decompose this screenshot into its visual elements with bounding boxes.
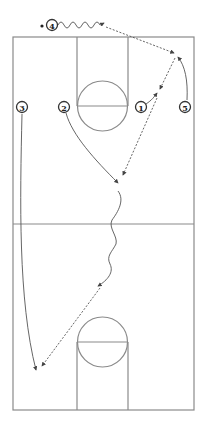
play-diagram: 1 2 3 4 5 <box>0 0 206 429</box>
player-1[interactable]: 1 <box>136 102 147 113</box>
cut-5 <box>178 57 187 100</box>
player-3-label: 3 <box>19 103 25 113</box>
pass-4-to-5 <box>106 27 174 53</box>
actions <box>21 22 187 370</box>
player-5[interactable]: 5 <box>180 102 191 113</box>
player-2[interactable]: 2 <box>59 102 70 113</box>
player-3[interactable]: 3 <box>17 102 28 113</box>
ball-icon <box>40 24 43 27</box>
cut-3 <box>21 114 36 370</box>
player-4[interactable]: 4 <box>40 20 57 31</box>
cut-2 <box>66 113 118 183</box>
pass-5-to-1 <box>160 58 175 89</box>
court-svg: 1 2 3 4 5 <box>0 0 206 429</box>
player-1-label: 1 <box>138 103 144 113</box>
pass-2-to-3 <box>42 288 100 366</box>
dribble-4 <box>58 22 104 28</box>
court <box>13 37 194 410</box>
dribble-2 <box>98 191 121 286</box>
players: 1 2 3 4 5 <box>17 20 191 113</box>
player-4-label: 4 <box>49 21 55 31</box>
player-2-label: 2 <box>61 103 67 113</box>
player-5-label: 5 <box>182 103 188 113</box>
